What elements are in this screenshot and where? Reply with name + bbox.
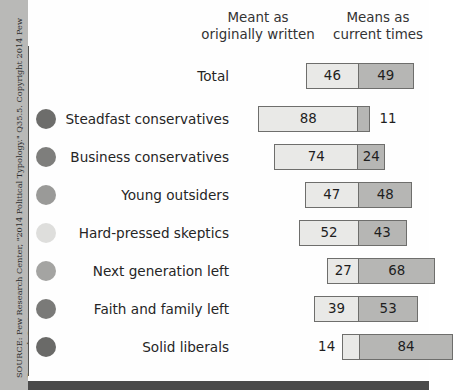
bar-track: 3953 — [231, 296, 429, 322]
bar-value-left: 88 — [300, 112, 317, 125]
source-credit-text: SOURCE: Pew Research Center, "2014 Polit… — [14, 0, 28, 378]
diverging-bar[interactable]: 4649 — [306, 63, 414, 89]
bar-segment-means-as-current-times[interactable]: 68 — [358, 259, 434, 283]
table-row[interactable]: Young outsiders4748 — [28, 176, 429, 214]
table-row[interactable]: Steadfast conservatives1188 — [28, 100, 429, 138]
legend-dot-icon — [36, 147, 56, 167]
bar-track: 1188 — [231, 106, 429, 132]
table-row[interactable]: Hard-pressed skeptics5243 — [28, 214, 429, 252]
row-label: Young outsiders — [54, 186, 229, 204]
diverging-bar[interactable]: 7424 — [274, 144, 385, 170]
bar-value-left: 46 — [324, 69, 341, 82]
row-label: Steadfast conservatives — [54, 110, 229, 128]
bar-value-left: 39 — [328, 302, 345, 315]
bar-segment-means-as-current-times[interactable]: 48 — [358, 183, 411, 207]
table-row[interactable]: Business conservatives7424 — [28, 138, 429, 176]
bar-segment-means-as-current-times[interactable]: 43 — [358, 221, 406, 245]
diverging-bar[interactable]: 5243 — [299, 220, 407, 246]
bar-value-left: 14 — [318, 340, 335, 353]
bar-segment-meant-as-originally-written[interactable]: 74 — [275, 145, 357, 169]
bar-segment-means-as-current-times[interactable] — [357, 107, 369, 131]
bar-value-right: 43 — [374, 226, 391, 239]
row-label: Business conservatives — [54, 148, 229, 166]
legend-dot-icon — [36, 185, 56, 205]
bar-segment-meant-as-originally-written[interactable]: 52 — [300, 221, 358, 245]
diverging-bar[interactable]: 84 — [342, 334, 453, 360]
legend-dot-icon — [36, 261, 56, 281]
bar-segment-means-as-current-times[interactable]: 53 — [358, 297, 417, 321]
row-label: Next generation left — [54, 262, 229, 280]
diverging-bar[interactable]: 4748 — [305, 182, 413, 208]
table-row[interactable]: Total4649 — [28, 52, 429, 100]
bottom-rule — [28, 381, 429, 390]
bar-track: 5243 — [231, 220, 429, 246]
diverging-bar[interactable]: 3953 — [314, 296, 418, 322]
bar-value-left: 27 — [335, 264, 352, 277]
column-header-meant-as-originally-written: Meant as originally written — [188, 10, 328, 43]
table-row[interactable]: Faith and family left3953 — [28, 290, 429, 328]
column-headers: Meant as originally written Means as cur… — [28, 6, 429, 52]
row-label: Solid liberals — [54, 338, 229, 356]
bar-value-right: 68 — [388, 264, 405, 277]
bar-value-right: 11 — [379, 112, 396, 125]
bar-track: 2768 — [231, 258, 429, 284]
bar-track: 1484 — [231, 334, 429, 360]
bar-track: 4748 — [231, 182, 429, 208]
bar-segment-meant-as-originally-written[interactable]: 47 — [306, 183, 358, 207]
bar-segment-means-as-current-times[interactable]: 49 — [358, 64, 413, 88]
bar-value-left: 52 — [320, 226, 337, 239]
bar-value-right: 24 — [363, 150, 380, 163]
source-credit-gutter: SOURCE: Pew Research Center, "2014 Polit… — [0, 0, 28, 390]
bar-value-right: 53 — [380, 302, 397, 315]
table-row[interactable]: Next generation left2768 — [28, 252, 429, 290]
diverging-bar[interactable]: 88 — [258, 106, 370, 132]
row-label: Hard-pressed skeptics — [54, 224, 229, 242]
chart-panel: Meant as originally written Means as cur… — [28, 0, 429, 381]
bar-value-right: 48 — [377, 188, 394, 201]
diverging-bar[interactable]: 2768 — [327, 258, 435, 284]
legend-dot-icon — [36, 299, 56, 319]
bar-track: 7424 — [231, 144, 429, 170]
column-header-means-as-current-times: Means as current times — [328, 10, 428, 43]
bar-track: 4649 — [231, 63, 429, 89]
bar-value-right: 49 — [377, 69, 394, 82]
bar-segment-meant-as-originally-written[interactable]: 39 — [315, 297, 358, 321]
legend-dot-icon — [36, 223, 56, 243]
bar-value-left: 47 — [323, 188, 340, 201]
bar-segment-meant-as-originally-written[interactable]: 88 — [259, 107, 357, 131]
legend-dot-icon — [36, 337, 56, 357]
bar-segment-means-as-current-times[interactable]: 24 — [357, 145, 384, 169]
bar-value-left: 74 — [308, 150, 325, 163]
row-label: Total — [54, 67, 229, 85]
bar-segment-means-as-current-times[interactable]: 84 — [359, 335, 453, 359]
bar-segment-meant-as-originally-written[interactable]: 46 — [307, 64, 358, 88]
legend-dot-icon — [36, 109, 56, 129]
table-row[interactable]: Solid liberals1484 — [28, 328, 429, 366]
bar-segment-meant-as-originally-written[interactable]: 27 — [328, 259, 358, 283]
bar-value-right: 84 — [397, 340, 414, 353]
row-label: Faith and family left — [54, 300, 229, 318]
chart-rows: Total4649Steadfast conservatives1188Busi… — [28, 52, 429, 366]
bar-segment-meant-as-originally-written[interactable] — [343, 335, 359, 359]
